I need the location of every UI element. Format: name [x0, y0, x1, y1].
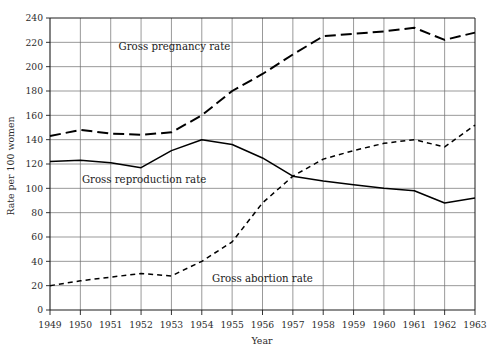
y-tick-label: 140: [25, 134, 43, 145]
y-tick-label: 20: [31, 280, 43, 291]
y-tick-label: 180: [25, 85, 43, 96]
y-tick-label: 60: [31, 231, 43, 242]
x-tick-label: 1961: [403, 319, 426, 330]
y-tick-label: 240: [25, 12, 43, 23]
y-tick-label: 0: [37, 304, 43, 315]
y-tick-label: 200: [25, 61, 43, 72]
x-tick-label: 1950: [69, 319, 93, 330]
x-tick-label: 1959: [342, 319, 366, 330]
y-tick-label: 80: [31, 207, 43, 218]
x-axis-tick-labels: 1949195019511952195319541955195619571958…: [38, 319, 487, 330]
x-tick-label: 1949: [38, 319, 62, 330]
tick-marks-layer: [46, 18, 475, 315]
x-tick-label: 1951: [99, 319, 122, 330]
series-label-gross-abortion-rate: Gross abortion rate: [212, 273, 313, 284]
y-tick-label: 220: [25, 37, 43, 48]
x-tick-label: 1953: [160, 319, 184, 330]
y-tick-label: 40: [31, 256, 43, 267]
series-label-gross-reproduction-rate: Gross reproduction rate: [82, 174, 206, 185]
series-label-gross-pregnancy-rate: Gross pregnancy rate: [119, 41, 231, 52]
chart-container: 020406080100120140160180200220240 194919…: [0, 0, 498, 354]
y-axis-tick-labels: 020406080100120140160180200220240: [25, 12, 43, 315]
x-tick-label: 1952: [129, 319, 152, 330]
x-tick-label: 1960: [372, 319, 396, 330]
x-tick-label: 1958: [312, 319, 336, 330]
x-tick-label: 1962: [433, 319, 456, 330]
line-chart: 020406080100120140160180200220240 194919…: [0, 0, 498, 354]
y-axis-title: Rate per 100 women: [5, 116, 16, 215]
x-tick-label: 1955: [220, 319, 244, 330]
x-tick-label: 1963: [463, 319, 487, 330]
y-tick-label: 160: [25, 110, 43, 121]
y-tick-label: 100: [25, 183, 43, 194]
series-annotations-layer: Gross pregnancy rateGross reproduction r…: [82, 41, 313, 284]
y-tick-label: 120: [25, 158, 43, 169]
x-tick-label: 1954: [190, 319, 214, 330]
x-tick-label: 1956: [251, 319, 275, 330]
x-axis-title: Year: [251, 335, 274, 346]
x-tick-label: 1957: [281, 319, 305, 330]
